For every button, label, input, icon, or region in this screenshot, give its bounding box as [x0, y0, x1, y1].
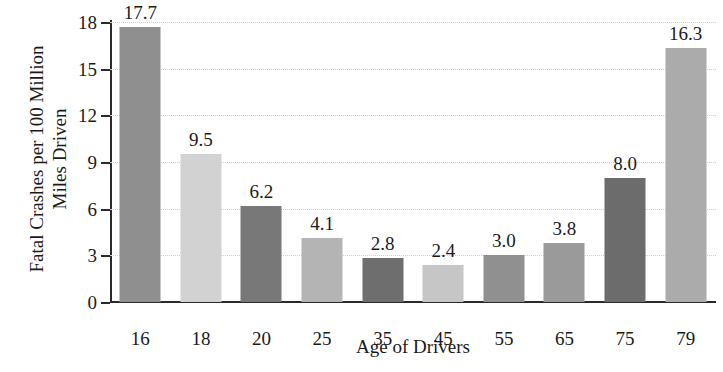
- y-tick-label: 6: [88, 199, 98, 218]
- y-tick-label: 18: [78, 13, 97, 32]
- bar-group: 16.379: [655, 22, 716, 302]
- y-tick-label: 12: [78, 106, 97, 125]
- bar-value-label: 9.5: [189, 130, 213, 149]
- bar-group: 17.716: [110, 22, 171, 302]
- bar-group: 3.055: [474, 22, 535, 302]
- bar-chart: Fatal Crashes per 100 Million Miles Driv…: [0, 0, 723, 372]
- bar-group: 9.518: [171, 22, 232, 302]
- bar[interactable]: [120, 27, 161, 302]
- bar[interactable]: [423, 265, 464, 302]
- bar[interactable]: [302, 238, 343, 302]
- y-tick-mark: [101, 302, 110, 304]
- y-tick-label: 9: [88, 153, 98, 172]
- y-tick-label: 3: [88, 246, 98, 265]
- plot-area: 0369121518 17.7169.5186.2204.1252.8352.4…: [110, 22, 716, 302]
- bar-group: 8.075: [595, 22, 656, 302]
- bar[interactable]: [605, 178, 646, 302]
- bar[interactable]: [483, 255, 524, 302]
- bar-value-label: 16.3: [669, 24, 702, 43]
- bar[interactable]: [362, 258, 403, 302]
- bar-group: 6.220: [231, 22, 292, 302]
- bar-value-label: 6.2: [250, 182, 274, 201]
- bar-group: 3.865: [534, 22, 595, 302]
- bar-value-label: 3.8: [553, 219, 577, 238]
- y-axis-title-line-2: Miles Driven: [48, 46, 71, 273]
- x-axis-title: Age of Drivers: [110, 336, 716, 358]
- y-tick-mark: [101, 115, 110, 117]
- y-axis-title-line-1: Fatal Crashes per 100 Million: [25, 46, 48, 273]
- y-tick-label: 15: [78, 59, 97, 78]
- bar-value-label: 3.0: [492, 231, 516, 250]
- bar[interactable]: [665, 48, 706, 302]
- y-tick-mark: [101, 22, 110, 24]
- bar-value-label: 17.7: [124, 3, 157, 22]
- bar-value-label: 2.8: [371, 234, 395, 253]
- y-tick-mark: [101, 69, 110, 71]
- bar[interactable]: [241, 206, 282, 302]
- y-tick-label: 0: [88, 293, 98, 312]
- bar-value-label: 4.1: [310, 214, 334, 233]
- bar-group: 2.835: [352, 22, 413, 302]
- y-tick-mark: [101, 162, 110, 164]
- bar-group: 2.445: [413, 22, 474, 302]
- y-axis-title: Fatal Crashes per 100 Million Miles Driv…: [0, 0, 96, 318]
- bar-value-label: 8.0: [613, 154, 637, 173]
- bar[interactable]: [180, 154, 221, 302]
- bar-group: 4.125: [292, 22, 353, 302]
- y-tick-mark: [101, 209, 110, 211]
- bar-value-label: 2.4: [431, 241, 455, 260]
- y-tick-mark: [101, 255, 110, 257]
- bar[interactable]: [544, 243, 585, 302]
